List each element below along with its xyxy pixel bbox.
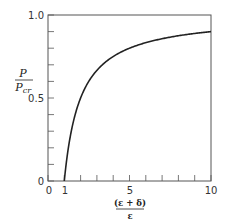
data-curve [64, 32, 211, 181]
chart: 1.0 0.5 0 0 1 5 10 P P cr (ε + δ) ε [0, 0, 227, 222]
svg-text:P: P [18, 67, 27, 80]
y-tick-label-0: 0 [38, 176, 44, 187]
svg-text:(ε + δ): (ε + δ) [114, 198, 146, 208]
x-tick-label-10: 10 [205, 185, 218, 196]
x-tick-label-1: 1 [62, 185, 68, 196]
x-tick-label-5: 5 [127, 185, 133, 196]
x-axis-label: (ε + δ) ε [114, 198, 146, 221]
y-tick-label-1.0: 1.0 [28, 10, 44, 21]
svg-text:cr: cr [23, 86, 32, 95]
y-axis-label: P P cr [14, 67, 33, 95]
y-axis-ticks [48, 15, 54, 181]
svg-text:ε: ε [127, 211, 132, 221]
x-tick-label-0: 0 [46, 185, 52, 196]
plot-frame [48, 15, 211, 181]
x-axis-ticks [48, 175, 211, 181]
